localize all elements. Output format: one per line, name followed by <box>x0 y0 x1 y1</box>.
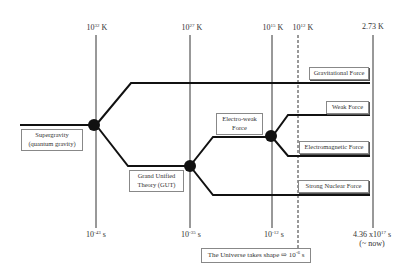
electroweak-sublabel: Force <box>220 124 259 133</box>
strong-force-label: Strong Nuclear Force <box>306 182 362 189</box>
supergravity-box: Supergravity (quantum gravity) <box>21 129 83 151</box>
gut-sublabel: Theory (GUT) <box>133 181 180 190</box>
weak-branch <box>272 115 370 137</box>
time-label-3: 10-12 s <box>264 230 284 239</box>
temperature-label-3: 1015 K <box>263 23 284 32</box>
gravitational-force-label: Gravitational Force <box>314 69 365 76</box>
universe-shape-unit: s <box>300 251 304 259</box>
gravitational-force-box: Gravitational Force <box>309 67 369 80</box>
gut-label: Grand Unified <box>133 172 180 181</box>
node-supergravity <box>88 119 100 131</box>
gut-branch <box>96 125 190 166</box>
temperature-label-5: 2.73 K <box>362 23 384 31</box>
temperature-label-2: 1027 K <box>182 23 203 32</box>
universe-shape-label: The Universe takes shape ⇨ 10 <box>208 251 296 259</box>
universe-shape-box: The Universe takes shape ⇨ 10-6 s <box>201 248 311 263</box>
supergravity-label: Supergravity <box>25 131 79 140</box>
time-label-4: 4.36 x1017 s <box>353 230 391 239</box>
time-label-now-note: (~ now) <box>359 240 384 248</box>
time-label-2: 10-35 s <box>181 230 201 239</box>
temperature-label-1: 1032 K <box>87 23 108 32</box>
strong-force-box: Strong Nuclear Force <box>298 180 369 193</box>
weak-force-box: Weak Force <box>326 101 369 114</box>
electroweak-label: Electro-weak <box>220 115 259 124</box>
electromagnetic-force-box: Electromagnetic Force <box>299 141 369 154</box>
time-label-1: 10-43 s <box>86 230 106 239</box>
supergravity-sublabel: (quantum gravity) <box>25 140 79 149</box>
node-electroweak <box>265 130 277 142</box>
node-gut <box>184 160 196 172</box>
weak-force-label: Weak Force <box>332 103 363 110</box>
electroweak-box: Electro-weak Force <box>216 113 263 135</box>
electromagnetic-force-label: Electromagnetic Force <box>304 143 363 150</box>
gut-box: Grand Unified Theory (GUT) <box>129 170 184 192</box>
temperature-label-4: 1012 K <box>293 23 314 32</box>
electroweak-branch <box>190 137 272 166</box>
